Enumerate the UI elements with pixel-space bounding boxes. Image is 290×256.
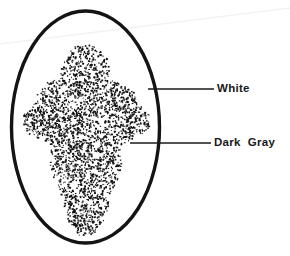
figure-container: White Dark Gray	[0, 0, 290, 256]
figure-illustration	[0, 0, 290, 256]
callout-label-dark-gray: Dark Gray	[214, 137, 275, 149]
callout-label-white: White	[217, 83, 250, 95]
